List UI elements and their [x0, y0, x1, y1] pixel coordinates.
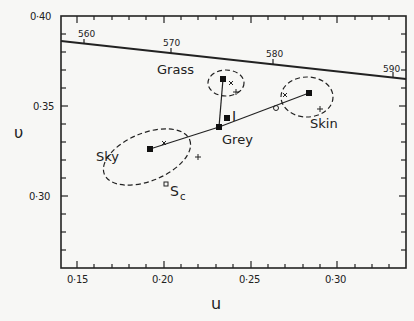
grass-mean-point [220, 76, 226, 82]
x-tick-label: 0·20 [152, 274, 173, 285]
x-tick-label: 0·25 [239, 274, 260, 285]
grass-label: Grass [157, 62, 194, 77]
skin-label: Skin [310, 116, 338, 131]
y-tick-label: 0·30 [29, 191, 50, 202]
x-axis-title: u [211, 294, 221, 313]
plus-markers [195, 89, 323, 160]
sky-label: Sky [96, 149, 119, 164]
wavelength-label: 570 [163, 38, 180, 48]
sc-subscript: c [180, 191, 186, 202]
spectrum-locus-line [61, 41, 406, 79]
y-tick-label: 0·35 [33, 101, 54, 112]
chromaticity-chart: 0·40 0·35 0·30 0·15 0·20 0·25 0·30 υ u 5… [0, 0, 414, 321]
wavelength-label: 590 [383, 64, 400, 74]
illuminant-point [224, 115, 230, 121]
grey-label: Grey [222, 132, 253, 147]
sc-label: S [170, 183, 179, 199]
x-tick-label: 0·30 [325, 274, 346, 285]
x-tick-label: 0·15 [67, 274, 88, 285]
sky-grey-line [150, 127, 219, 149]
sky-mean-point [147, 146, 153, 152]
wavelength-ticks [84, 39, 393, 77]
circle-point [274, 106, 279, 111]
y-tick-label: 0·40 [30, 11, 51, 22]
grey-grass-line [219, 79, 223, 127]
grey-point [216, 124, 222, 130]
skin-ellipse [281, 77, 333, 117]
wavelength-label: 560 [78, 29, 95, 39]
sc-point [164, 182, 168, 186]
y-axis-title: υ [14, 123, 23, 142]
illuminant-label: I [232, 108, 236, 124]
skin-mean-point [306, 90, 312, 96]
wavelength-label: 580 [266, 49, 283, 59]
